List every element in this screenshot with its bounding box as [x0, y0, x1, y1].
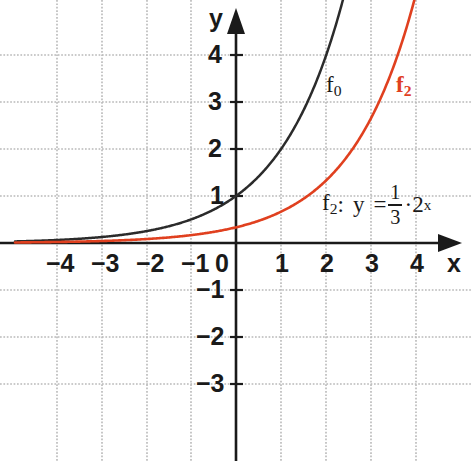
formula-name-base: f	[322, 190, 330, 215]
curve-label-f2-subscript: 2	[404, 82, 412, 99]
x-tick-label--3: −3	[91, 251, 120, 276]
x-tick-label--2: −2	[136, 251, 165, 276]
formula-equals: =	[373, 192, 386, 218]
curve-label-f2: f2	[396, 73, 411, 99]
formula-variable: y	[353, 192, 365, 218]
formula-denominator: 3	[388, 207, 402, 228]
curve-label-f0-base: f	[326, 72, 334, 97]
y-tick-label--2: −2	[196, 324, 225, 349]
plot-canvas	[0, 0, 472, 461]
axes	[0, 8, 462, 461]
curve-label-f0: f0	[326, 73, 341, 99]
x-tick-label--1: −1	[181, 251, 210, 276]
y-tick-label--3: −3	[196, 371, 225, 396]
formula-multiplication-dot: ·	[404, 192, 412, 218]
function-plot-figure: −4 −3 −2 −1 0 1 2 3 4 4 3 2 1 −1 −2 −3 y…	[0, 0, 472, 461]
x-tick-label--4: −4	[46, 251, 75, 276]
curve-label-f2-base: f	[396, 72, 404, 97]
formula-fraction: 1 3	[388, 182, 402, 227]
y-tick-label-3: 3	[208, 89, 222, 114]
y-tick-label-1: 1	[210, 183, 224, 208]
formula-numerator: 1	[388, 182, 402, 203]
formula-exponent: x	[424, 196, 432, 214]
curve-label-f0-subscript: 0	[334, 82, 342, 99]
x-tick-label-2: 2	[320, 251, 334, 276]
y-axis-label: y	[209, 6, 223, 31]
formula-annotation: f2: y = 1 3 · 2x	[322, 182, 431, 227]
formula-function-name: f2	[322, 190, 337, 218]
y-tick-label-4: 4	[208, 42, 222, 67]
y-tick-label--1: −1	[196, 277, 225, 302]
x-tick-label-3: 3	[365, 251, 379, 276]
formula-base: 2	[412, 192, 424, 218]
y-tick-label-2: 2	[208, 136, 222, 161]
x-tick-label-4: 4	[410, 251, 424, 276]
formula-colon: :	[337, 192, 343, 218]
formula-name-subscript: 2	[330, 201, 338, 218]
x-axis-label: x	[447, 251, 461, 276]
x-tick-label-0: 0	[215, 251, 229, 276]
y-axis-arrowhead	[227, 8, 245, 34]
x-tick-label-1: 1	[275, 251, 289, 276]
